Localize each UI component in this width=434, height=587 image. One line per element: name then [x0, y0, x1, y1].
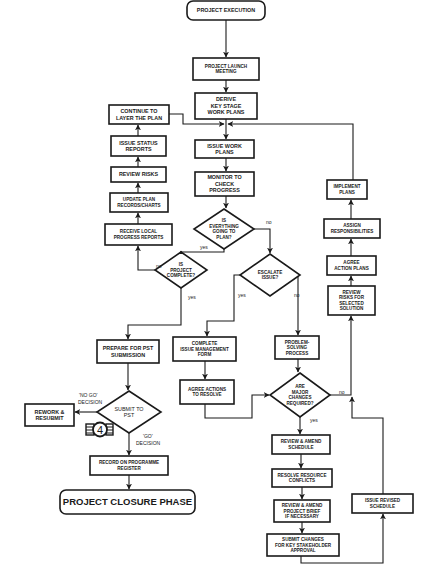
node-label: RECORDS/CHARTS	[117, 203, 160, 208]
node-label: RESUBMIT	[35, 415, 64, 421]
node-label: REWORK &	[35, 409, 65, 415]
node-label: SUBMIT TO	[114, 406, 143, 412]
node-label: ISSUE STATUS	[119, 140, 158, 146]
node-resolve-conflicts: RESOLVE RESOURCECONFLICTS	[272, 469, 332, 487]
node-project-execution: PROJECT EXECUTION	[187, 1, 265, 20]
node-project-complete: ISPROJECTCOMPLETE?	[155, 252, 207, 288]
node-monitor-progress: MONITOR TOCHECKPROGRESS	[195, 172, 254, 196]
flowchart-svg: PROJECT EXECUTIONPROJECT LAUNCHMEETINGDE…	[0, 0, 434, 587]
node-label: PROJECT LAUNCH	[205, 64, 248, 69]
edge-label: DECISION	[78, 399, 103, 405]
node-label: RESOLVE RESOURCE	[278, 473, 327, 478]
edge-label: no	[339, 389, 345, 395]
node-label: ISSUE?	[262, 275, 279, 280]
node-label: SELECTED	[339, 301, 364, 306]
node-review-amend-schedule: REVIEW & AMENDSCHEDULE	[272, 435, 330, 454]
node-label: DERIVE	[216, 96, 236, 102]
node-label: COMPLETE?	[167, 273, 196, 278]
node-label: ISSUE WORK	[207, 143, 242, 149]
node-label: APPROVAL	[290, 548, 315, 553]
node-label: REQUIRED?	[286, 401, 313, 406]
node-issue-revised-schedule: ISSUE REVISEDSCHEDULE	[352, 494, 413, 513]
node-label: AGREE	[343, 260, 359, 265]
node-label: REVIEW & AMEND	[281, 439, 322, 444]
edge-label: no	[294, 292, 300, 298]
edge-label: yes	[310, 417, 318, 423]
edge-label: yes	[188, 294, 196, 300]
node-assign-resp: ASSIGNRESPONSIBILITIES	[324, 219, 380, 238]
node-label: SUBMISSION	[111, 352, 145, 358]
node-label: CHECK	[215, 181, 234, 187]
node-label: CHANGES	[289, 395, 312, 400]
node-label: SOLUTION	[340, 306, 364, 311]
node-label: MONITOR TO	[207, 174, 241, 180]
node-label: COMPLETE	[192, 341, 218, 346]
badge-number: 4	[97, 424, 103, 436]
node-update-plan: UPDATE PLANRECORDS/CHARTS	[110, 193, 168, 212]
node-label: EVERYTHING	[209, 224, 239, 229]
node-escalate-issue: ESCALATEISSUE?	[240, 254, 300, 296]
node-label: IMPLEMENT	[333, 184, 360, 189]
node-label: ESCALATE	[258, 270, 282, 275]
node-label: SCHEDULE	[370, 504, 395, 509]
node-label: AGREE ACTIONS	[188, 387, 226, 392]
node-label: WORK PLANS	[208, 109, 245, 115]
node-label: SOLVING	[287, 345, 308, 350]
node-receive-local: RECEIVE LOCALPROGRESS REPORTS	[105, 224, 172, 245]
node-submit-changes: SUBMIT CHANGESFOR KEY STAKEHOLDERAPPROVA…	[267, 534, 339, 556]
edge-label: no	[266, 219, 272, 225]
node-label: ISSUE MANAGEMENT	[180, 347, 229, 352]
node-review-risks: REVIEW RISKS	[111, 167, 166, 182]
node-label: PROBLEM-	[285, 340, 310, 345]
node-everything-plan: ISEVERYTHINGGOING TOPLAN?	[194, 209, 254, 249]
node-agree-actions-resolve: AGREE ACTIONSTO RESOLVE	[180, 380, 234, 404]
node-label: PROJECT EXECUTION	[197, 7, 256, 13]
node-project-launch: PROJECT LAUNCHMEETING	[193, 58, 259, 80]
node-label: PROJECT CLOSURE PHASE	[63, 496, 192, 507]
edge-label: 'GO'	[143, 433, 153, 439]
node-label: REVIEW RISKS	[119, 171, 159, 177]
node-label: ISSUE REVISED	[365, 498, 401, 503]
connector-escalate-no	[298, 275, 300, 335]
node-problem-solving: PROBLEM-SOLVINGPROCESS	[275, 336, 319, 359]
node-label: PROJECT	[170, 268, 192, 273]
node-label: IF NECESSARY	[285, 514, 319, 519]
numbered-badge-4-icon: 4	[86, 423, 113, 437]
node-label: MAJOR	[292, 390, 309, 395]
connector-no-to-receive	[138, 246, 155, 270]
edge-label: no	[156, 263, 162, 269]
node-label: PROGRESS	[209, 187, 240, 193]
edge-label: DECISION	[136, 440, 161, 446]
node-issue-work-plans: ISSUE WORKPLANS	[195, 140, 254, 158]
node-label: RESPONSIBILITIES	[331, 229, 374, 234]
node-label: TO RESOLVE	[192, 392, 221, 397]
flowchart-canvas: PROJECT EXECUTIONPROJECT LAUNCHMEETINGDE…	[0, 0, 434, 587]
node-implement-plans: IMPLEMENTPLANS	[327, 180, 367, 199]
node-label: UPDATE PLAN	[123, 197, 156, 202]
node-agree-action: AGREEACTION PLANS	[327, 256, 376, 275]
node-label: KEY STAGE	[211, 103, 242, 109]
node-label: REGISTER	[117, 466, 141, 471]
node-review-brief: REVIEW & AMENDPROJECT BRIEFIF NECESSARY	[274, 500, 330, 522]
node-label: CONTINUE TO	[120, 108, 157, 114]
node-review-risks-solution: REVIEWRISKS FORSELECTEDSOLUTION	[328, 286, 375, 315]
node-label: PROGRESS REPORTS	[114, 235, 164, 240]
node-label: LAYER THE PLAN	[116, 115, 162, 121]
node-issue-status: ISSUE STATUSREPORTS	[111, 136, 166, 156]
node-label: ARE	[295, 384, 305, 389]
edge-label: yes	[238, 292, 246, 298]
edge-label: yes	[200, 244, 208, 250]
connector-escalate-yes	[207, 275, 240, 336]
node-label: REVIEW	[342, 290, 361, 295]
node-label: IS	[179, 262, 183, 267]
node-label: SCHEDULE	[288, 445, 313, 450]
node-label: REPORTS	[125, 146, 151, 152]
node-label: RECORD ON PROGRAMME	[99, 460, 159, 465]
node-label: RECEIVE LOCAL	[120, 229, 157, 234]
node-label: PROCESS	[286, 351, 308, 356]
node-label: FORM	[198, 352, 212, 357]
node-label: PREPARE FOR PST	[103, 345, 154, 351]
node-rework-resubmit: REWORK &RESUBMIT	[25, 404, 74, 426]
node-derive-plans: DERIVEKEY STAGEWORK PLANS	[195, 93, 257, 119]
node-label: PLAN?	[216, 235, 232, 240]
